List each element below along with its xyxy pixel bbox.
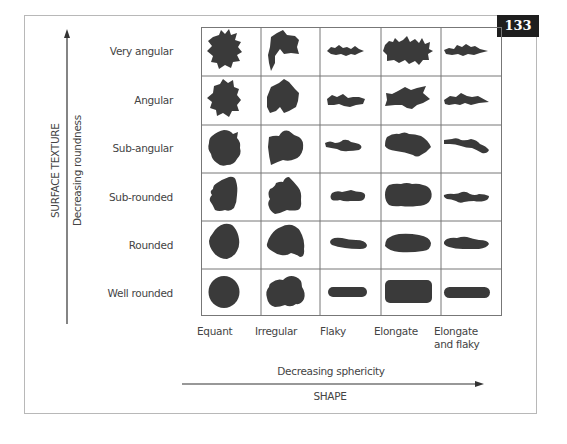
particle-very-angular-elongate-flaky — [444, 44, 488, 56]
particle-sub-angular-elongate — [385, 133, 431, 157]
row-label-rounded: Rounded — [129, 239, 173, 251]
particle-rounded-elongate — [385, 234, 431, 253]
particle-sub-rounded-flaky — [331, 190, 366, 201]
row-label-sub-rounded: Sub-rounded — [109, 191, 173, 203]
particle-sub-rounded-equant — [210, 177, 238, 211]
grid-lines — [201, 27, 502, 316]
particle-well-rounded-flaky — [328, 287, 367, 297]
particle-rounded-flaky — [330, 238, 367, 249]
particle-sub-rounded-irregular — [268, 177, 301, 214]
particle-sub-angular-irregular — [268, 131, 303, 165]
horizontal-arrow-icon — [182, 381, 484, 387]
particle-sub-angular-flaky — [325, 140, 362, 152]
particle-very-angular-irregular — [268, 30, 299, 71]
particle-sub-rounded-elongate-flaky — [444, 192, 489, 203]
row-label-angular: Angular — [134, 94, 173, 106]
shape-roundness-grid — [201, 27, 502, 316]
particle-rounded-equant — [209, 224, 239, 259]
x-axis-title: SHAPE — [313, 390, 346, 402]
col-label-irregular: Irregular — [255, 325, 297, 338]
particle-sub-angular-equant — [208, 130, 240, 166]
particle-sub-angular-elongate-flaky — [444, 138, 489, 153]
x-axis-subtitle: Decreasing sphericity — [277, 365, 385, 377]
row-label-sub-angular: Sub-angular — [112, 142, 173, 154]
particle-angular-irregular — [267, 79, 299, 113]
col-label-flaky: Flaky — [320, 325, 346, 338]
particle-rounded-irregular — [267, 225, 304, 257]
particle-well-rounded-elongate-flaky — [444, 287, 490, 298]
y-axis-subtitle: Decreasing roundness — [71, 115, 83, 226]
col-label-elongate: Elongate — [374, 325, 418, 338]
particle-very-angular-equant — [207, 29, 242, 69]
particle-angular-equant — [207, 79, 241, 117]
particle-angular-elongate — [385, 86, 430, 109]
particle-rounded-elongate-flaky — [444, 237, 489, 249]
particle-angular-flaky — [327, 94, 365, 107]
particle-angular-elongate-flaky — [444, 93, 489, 105]
vertical-arrow-icon — [64, 29, 70, 324]
particle-very-angular-flaky — [327, 45, 364, 56]
row-label-well-rounded: Well rounded — [108, 287, 173, 299]
particle-sub-rounded-elongate — [385, 183, 432, 207]
row-label-very-angular: Very angular — [110, 45, 173, 57]
col-label-equant: Equant — [197, 325, 232, 338]
particle-well-rounded-irregular — [266, 276, 304, 307]
y-axis-title: SURFACE TEXTURE — [49, 123, 61, 218]
col-label-elongate-flaky: Elongate and flaky — [434, 325, 479, 351]
particle-very-angular-elongate — [383, 36, 433, 65]
particle-well-rounded-equant — [209, 276, 240, 308]
particle-well-rounded-elongate — [385, 280, 432, 303]
